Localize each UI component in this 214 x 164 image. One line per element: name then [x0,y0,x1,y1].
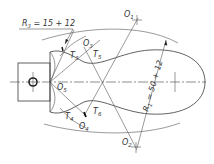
r3-dimension-label: R3 = 15 + 12 [22,19,75,29]
label-o3: O3 [83,39,93,49]
label-t4: T4 [65,112,74,122]
r1-dimension-label: R1 = 50 + 12 [141,59,165,113]
label-o4: O4 [79,122,89,132]
line-o5-o4 [50,82,86,116]
label-t6: T6 [93,107,102,117]
construction-arc-r5-bottom [50,82,55,112]
label-o1: O1 [124,10,134,20]
construction-arc-r5-top [50,52,55,82]
svg-text:R1 = 50 + 12: R1 = 50 + 12 [141,59,165,113]
line-o3-o2 [84,47,137,150]
r1-arrowhead [164,40,167,46]
label-o5: O5 [57,83,67,93]
construction-drawing: R3 = 15 + 12 R1 = 50 + 12 O1 O2 O3 O4 O5… [0,0,214,164]
label-t3: T3 [70,51,79,61]
construction-arc-bottom-outer [44,123,180,133]
line-o4-o1 [84,18,138,116]
drawing-canvas: R3 = 15 + 12 R1 = 50 + 12 O1 O2 O3 O4 O5… [0,0,214,164]
label-o2: O2 [122,138,132,148]
construction-arc-top-outer [42,29,178,43]
t3-mark [62,47,63,51]
label-t5: T5 [93,50,102,60]
